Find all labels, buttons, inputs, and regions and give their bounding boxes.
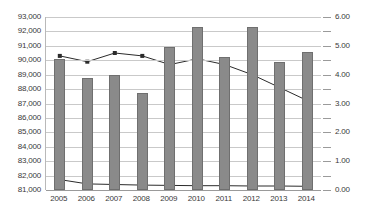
x-axis-tick-label-2012: 2012 [238,195,266,203]
x-axis-tick-label-2006: 2006 [73,195,101,203]
right-axis-tick-label: 4.00 [335,71,367,79]
right-axis-tick-label: 2.00 [335,128,367,136]
x-axis-tick-label-2014: 2014 [293,195,321,203]
right-axis-tick-label: 5.00 [335,42,367,50]
gridline [46,17,321,18]
left-axis-tick-label: 85,000 [1,128,41,136]
left-axis-tick-label: 91,000 [1,42,41,50]
gridline [46,46,321,47]
right-axis-tick-label: 3.00 [335,100,367,108]
right-axis-tick-mark [323,46,331,47]
bar-2010 [192,27,203,190]
x-axis-tick-label-2007: 2007 [100,195,128,203]
right-axis-tick-mark [323,89,331,90]
bar-2009 [164,47,175,190]
left-axis-tick-label: 89,000 [1,71,41,79]
marker-upper-line-2005 [58,54,62,58]
left-axis-tick-label: 93,000 [1,13,41,21]
x-axis-tick-label-2008: 2008 [128,195,156,203]
x-axis-tick-label-2010: 2010 [183,195,211,203]
bar-2005 [54,59,65,190]
bar-2011 [219,57,230,190]
right-axis-tick-label: 1.00 [335,157,367,165]
right-axis-tick-mark [323,132,331,133]
left-axis-tick-label: 86,000 [1,114,41,122]
line-lower-line [60,180,307,187]
left-axis-tick-label: 92,000 [1,27,41,35]
marker-upper-line-2007 [113,51,117,55]
chart-container: 81,00082,00083,00084,00085,00086,00087,0… [0,0,367,222]
right-axis-tick-mark [323,161,331,162]
right-axis-tick-mark [323,60,331,61]
left-axis-tick-label: 90,000 [1,56,41,64]
right-axis-tick-label: 6.00 [335,13,367,21]
x-axis-tick-label-2009: 2009 [155,195,183,203]
right-axis-tick-mark [323,147,331,148]
x-axis-tick-label-2011: 2011 [210,195,238,203]
right-axis-tick-mark [323,17,331,18]
right-axis-tick-mark [323,104,331,105]
marker-upper-line-2008 [140,54,144,58]
bar-2012 [247,27,258,190]
x-axis-tick-label-2005: 2005 [45,195,73,203]
left-axis: 81,00082,00083,00084,00085,00086,00087,0… [0,0,41,222]
plot-area [45,17,321,190]
bar-2013 [274,62,285,190]
right-axis-tick-mark [323,31,331,32]
right-axis-tick-mark [323,75,331,76]
gridline [46,190,321,191]
bar-2007 [109,75,120,190]
x-axis-tick-label-2013: 2013 [265,195,293,203]
x-axis: 2005200620072008200920102011201220132014 [45,193,320,207]
left-axis-tick-label: 82,000 [1,172,41,180]
left-axis-tick-label: 83,000 [1,157,41,165]
bar-2008 [137,93,148,190]
bar-2006 [82,78,93,190]
right-axis-tick-label: 0.00 [335,186,367,194]
right-axis-tick-mark [323,176,331,177]
right-axis-tick-mark [323,118,331,119]
bar-2014 [302,52,313,190]
right-axis: 0.001.002.003.004.005.006.00 [323,0,367,222]
left-axis-tick-label: 87,000 [1,100,41,108]
left-axis-tick-label: 81,000 [1,186,41,194]
left-axis-tick-label: 84,000 [1,143,41,151]
right-axis-tick-mark [323,190,331,191]
gridline [46,31,321,32]
left-axis-tick-label: 88,000 [1,85,41,93]
